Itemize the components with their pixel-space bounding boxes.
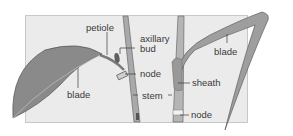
- monocot-node: [173, 110, 183, 115]
- sheath: [172, 58, 182, 91]
- label-node-right: node: [191, 110, 212, 120]
- label-blade-left: blade: [67, 90, 90, 100]
- dicot-leaf-blade: [13, 46, 102, 118]
- petiole: [100, 55, 124, 70]
- dicot-node: [117, 71, 128, 80]
- label-stem: stem: [142, 91, 163, 101]
- label-node-left: node: [140, 69, 161, 79]
- monocot-blade: [176, 12, 268, 130]
- label-bud: bud: [140, 44, 156, 54]
- label-sheath: sheath: [192, 78, 221, 88]
- dicot-stem: [123, 16, 140, 122]
- label-petiole: petiole: [86, 23, 114, 33]
- label-blade-right: blade: [214, 47, 237, 57]
